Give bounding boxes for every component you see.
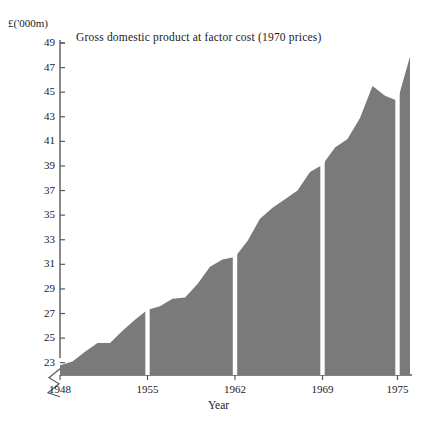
chart-canvas (0, 0, 437, 438)
gdp-area-chart: £('000m) Gross domestic product at facto… (0, 0, 437, 438)
y-tick-label-47: 47 (29, 62, 55, 73)
y-axis-unit-label: £('000m) (8, 17, 48, 29)
y-tick-label-39: 39 (29, 160, 55, 171)
x-tick-label-1975: 1975 (375, 384, 421, 395)
year-separator-1962 (233, 37, 237, 375)
y-tick-label-25: 25 (29, 332, 55, 343)
y-tick-label-43: 43 (29, 111, 55, 122)
y-tick-label-37: 37 (29, 185, 55, 196)
y-tick-label-45: 45 (29, 86, 55, 97)
x-tick-label-1948: 1948 (37, 384, 83, 395)
x-axis-title: Year (0, 399, 437, 411)
y-tick-label-27: 27 (29, 308, 55, 319)
y-tick-label-29: 29 (29, 283, 55, 294)
y-tick-label-31: 31 (29, 258, 55, 269)
chart-title: Gross domestic product at factor cost (1… (76, 31, 322, 43)
x-tick-label-1955: 1955 (125, 384, 171, 395)
y-tick-label-33: 33 (29, 234, 55, 245)
year-separator-1969 (320, 37, 324, 375)
y-tick-label-41: 41 (29, 135, 55, 146)
y-tick-label-35: 35 (29, 209, 55, 220)
x-tick-label-1969: 1969 (300, 384, 346, 395)
x-tick-label-1962: 1962 (212, 384, 258, 395)
y-tick-label-23: 23 (29, 357, 55, 368)
year-separator-1975 (395, 37, 399, 375)
year-separator-1955 (145, 37, 149, 375)
y-tick-label-49: 49 (29, 37, 55, 48)
